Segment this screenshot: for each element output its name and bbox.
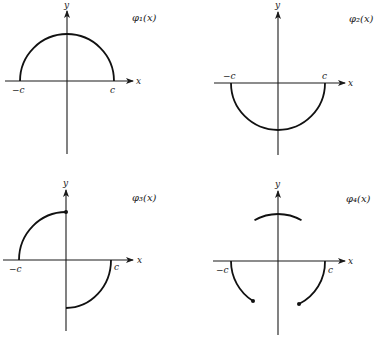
tick-left: −c — [12, 85, 25, 95]
endpoint-dot-right — [297, 302, 301, 306]
curve-lower-left — [231, 261, 253, 301]
y-axis-label: y — [274, 0, 281, 10]
function-label: φ₄(x) — [346, 193, 371, 204]
panel-phi1: y x −c c φ₁(x) — [5, 0, 157, 154]
tick-left: −c — [216, 265, 229, 275]
panel-phi3: y x −c c φ₃(x) — [3, 178, 157, 331]
x-axis-label: x — [348, 256, 353, 266]
tick-right: c — [328, 265, 333, 275]
curve-upper-left — [19, 212, 66, 260]
curve-lower-right — [299, 261, 325, 304]
tick-right: c — [110, 85, 115, 95]
y-axis-label: y — [274, 179, 281, 189]
x-axis-label: x — [348, 78, 353, 88]
endpoint-dot-left — [251, 299, 255, 303]
panel-phi4: y x −c c φ₄(x) — [213, 179, 371, 335]
x-axis-label: x — [137, 255, 142, 265]
function-label: φ₃(x) — [132, 192, 157, 203]
tick-right: c — [114, 262, 119, 272]
endpoint-dot — [64, 210, 68, 214]
tick-left: −c — [9, 264, 22, 274]
y-axis-label: y — [62, 178, 69, 188]
y-axis-label: y — [63, 0, 70, 10]
panel-phi2: y x −c c φ₂(x) — [214, 0, 374, 155]
function-label: φ₁(x) — [132, 12, 157, 23]
curve-lower-right — [66, 260, 111, 308]
x-axis-label: x — [136, 76, 141, 86]
diagram-canvas: y x −c c φ₁(x) y x −c c φ₂(x) y x −c c φ… — [0, 0, 378, 344]
tick-right: c — [322, 71, 327, 81]
tick-left: −c — [223, 71, 236, 81]
function-label: φ₂(x) — [349, 13, 374, 24]
